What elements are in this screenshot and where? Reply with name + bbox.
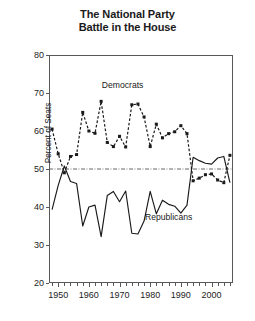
y-tick-label-50: 50 — [34, 165, 44, 174]
data-point-democrats-1990 — [179, 124, 182, 127]
y-tick-label-40: 40 — [34, 203, 44, 212]
x-tick-mark-1964 — [101, 283, 102, 286]
data-point-democrats-1994 — [192, 179, 195, 182]
x-tick-mark-1948 — [52, 283, 53, 286]
data-point-democrats-1964 — [100, 100, 103, 103]
data-point-democrats-1966 — [106, 141, 109, 144]
x-tick-mark-1998 — [205, 283, 206, 286]
data-point-democrats-1978 — [143, 115, 146, 118]
x-tick-label-1960: 1960 — [79, 290, 99, 300]
y-tick-mark-20 — [46, 283, 50, 284]
data-point-democrats-1992 — [186, 132, 189, 135]
data-point-democrats-2000 — [210, 172, 213, 175]
data-point-democrats-1950 — [57, 152, 60, 155]
x-tick-mark-1980 — [150, 283, 151, 287]
x-tick-mark-1978 — [144, 283, 145, 286]
x-tick-label-1970: 1970 — [110, 290, 130, 300]
x-tick-mark-1990 — [181, 283, 182, 287]
x-tick-mark-1972 — [126, 283, 127, 286]
y-tick-label-60: 60 — [34, 127, 44, 136]
x-tick-mark-1970 — [120, 283, 121, 287]
x-tick-mark-1954 — [70, 283, 71, 286]
x-tick-mark-1962 — [95, 283, 96, 286]
x-tick-mark-1986 — [169, 283, 170, 286]
chart-container: The National Party Battle in the House P… — [0, 0, 255, 321]
x-tick-mark-2000 — [212, 283, 213, 287]
x-tick-mark-2002 — [218, 283, 219, 286]
data-point-democrats-1962 — [94, 132, 97, 135]
chart-title-line-2: Battle in the House — [0, 21, 255, 34]
x-tick-mark-1952 — [64, 283, 65, 286]
chart-title-line-1: The National Party — [0, 8, 255, 21]
data-point-democrats-1970 — [118, 135, 121, 138]
data-point-democrats-1968 — [112, 145, 115, 148]
data-point-democrats-1998 — [204, 173, 207, 176]
x-tick-mark-1958 — [83, 283, 84, 286]
data-point-democrats-1988 — [173, 130, 176, 133]
y-tick-label-20: 20 — [34, 279, 44, 288]
y-tick-label-80: 80 — [34, 51, 44, 60]
series-line-republicans — [52, 156, 230, 236]
x-tick-mark-1984 — [162, 283, 163, 286]
data-point-democrats-1982 — [155, 123, 158, 126]
data-point-democrats-1958 — [81, 111, 84, 114]
x-tick-label-1980: 1980 — [140, 290, 160, 300]
x-tick-label-1950: 1950 — [48, 290, 68, 300]
data-point-democrats-1952 — [63, 171, 66, 174]
x-tick-mark-1992 — [187, 283, 188, 286]
series-line-democrats — [52, 101, 230, 182]
x-tick-mark-1956 — [77, 283, 78, 286]
y-tick-label-70: 70 — [34, 89, 44, 98]
data-point-democrats-1980 — [149, 145, 152, 148]
data-point-democrats-1996 — [198, 177, 201, 180]
y-tick-label-30: 30 — [34, 241, 44, 250]
chart-title: The National Party Battle in the House — [0, 8, 255, 34]
data-point-democrats-1984 — [161, 136, 164, 139]
x-tick-mark-2006 — [230, 283, 231, 286]
x-tick-mark-1966 — [107, 283, 108, 286]
data-point-democrats-1976 — [136, 103, 139, 106]
data-point-democrats-1956 — [75, 153, 78, 156]
data-point-democrats-1960 — [87, 130, 90, 133]
data-point-democrats-2004 — [222, 181, 225, 184]
data-point-democrats-1954 — [69, 155, 72, 158]
x-tick-mark-1996 — [199, 283, 200, 286]
democrats-label: Democrats — [102, 81, 144, 90]
plot-area: Percent of Seats 20304050607080 19501960… — [49, 55, 233, 283]
x-tick-label-1990: 1990 — [171, 290, 191, 300]
x-tick-mark-1994 — [193, 283, 194, 286]
data-point-democrats-1948 — [51, 128, 54, 131]
x-tick-mark-1960 — [89, 283, 90, 287]
data-point-democrats-1974 — [130, 103, 133, 106]
x-tick-mark-1988 — [175, 283, 176, 286]
x-tick-mark-1982 — [156, 283, 157, 286]
x-tick-mark-2004 — [224, 283, 225, 286]
x-tick-mark-1950 — [58, 283, 59, 287]
republicans-label: Republicans — [145, 212, 192, 221]
x-tick-mark-1976 — [138, 283, 139, 286]
x-tick-label-2000: 2000 — [202, 290, 222, 300]
x-tick-mark-1974 — [132, 283, 133, 286]
data-point-democrats-2006 — [228, 154, 231, 157]
data-point-democrats-1972 — [124, 145, 127, 148]
data-point-democrats-1986 — [167, 132, 170, 135]
x-tick-mark-1968 — [113, 283, 114, 286]
data-point-democrats-2002 — [216, 179, 219, 182]
